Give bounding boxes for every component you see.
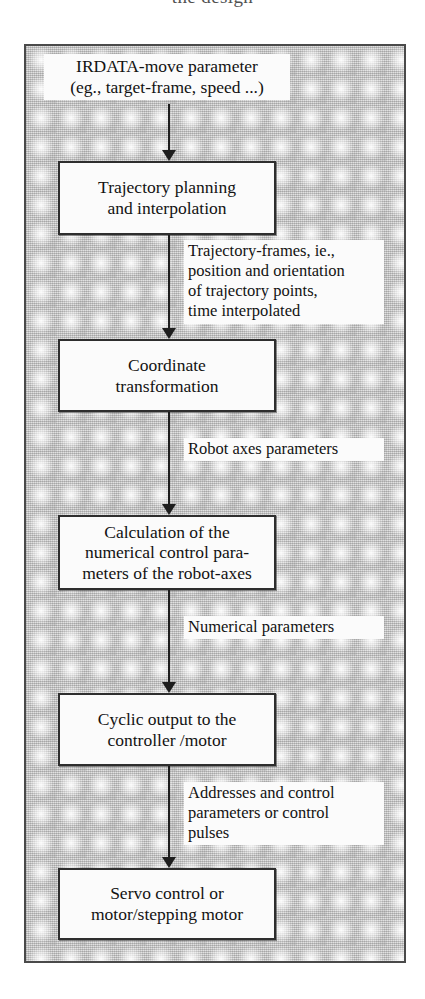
arrow-node-2-to-node-3	[162, 412, 176, 515]
process-box-trajectory-planning[interactable]: Trajectory planning and interpolation	[58, 161, 276, 235]
process-box-cyclic-output[interactable]: Cyclic output to the controller /motor	[58, 693, 276, 766]
process-box-label: Trajectory planning and interpolation	[98, 177, 236, 218]
edge-label-robot-axes-parameters: Robot axes parameters	[184, 438, 384, 461]
arrow-node-1-to-node-2	[162, 235, 176, 339]
edge-label-addresses-and-control: Addresses and control parameters or cont…	[184, 782, 384, 845]
process-box-label: Servo control or motor/stepping motor	[91, 883, 243, 924]
process-box-label: Cyclic output to the controller /motor	[98, 709, 237, 750]
clipped-header-text: the design	[0, 0, 425, 8]
source-label: IRDATA-move parameter (eg., target-frame…	[44, 54, 290, 100]
arrow-node-3-to-node-4	[162, 590, 176, 693]
process-box-numerical-control-calculation[interactable]: Calculation of the numerical control par…	[58, 515, 276, 590]
diagram-canvas: IRDATA-move parameter (eg., target-frame…	[26, 46, 404, 961]
arrow-node-4-to-node-5	[162, 766, 176, 868]
figure-frame: IRDATA-move parameter (eg., target-frame…	[24, 44, 406, 963]
process-box-label: Calculation of the numerical control par…	[82, 522, 252, 584]
edge-label-trajectory-frames: Trajectory-frames, ie., position and ori…	[184, 240, 384, 324]
process-box-servo-control[interactable]: Servo control or motor/stepping motor	[58, 868, 276, 940]
process-box-label: Coordinate transformation	[115, 355, 218, 396]
process-box-coordinate-transformation[interactable]: Coordinate transformation	[58, 339, 276, 412]
arrow-source-to-node-1	[162, 104, 176, 161]
edge-label-numerical-parameters: Numerical parameters	[184, 616, 384, 639]
